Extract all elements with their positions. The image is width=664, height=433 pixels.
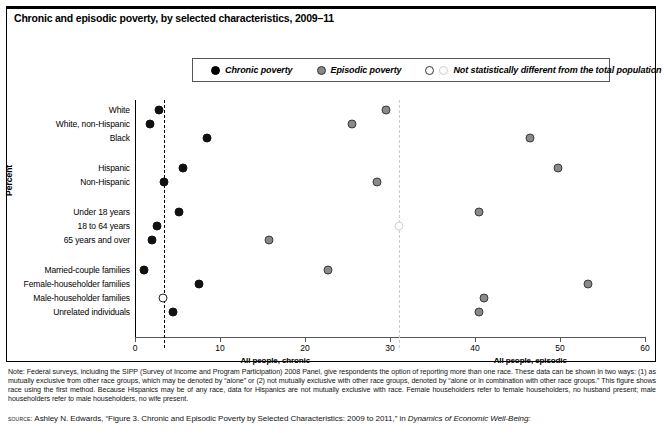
category-label: White, non-Hispanic [56,119,130,129]
data-point [139,266,148,275]
x-axis-tick [390,337,391,342]
data-point [554,164,563,173]
data-point [526,134,535,143]
source-text: Ashley N. Edwards, “Figure 3. Chronic an… [33,414,408,423]
x-axis-tick [135,337,136,342]
x-axis-tick-label: 50 [555,343,564,353]
category-label: Female-householder families [24,279,130,289]
category-label: White [109,105,130,115]
data-point [194,280,203,289]
data-point [148,236,157,245]
x-axis-tick [560,337,561,342]
data-point [265,236,274,245]
category-label: Black [110,133,130,143]
source-prefix: source: [8,415,33,422]
category-label: Male-householder families [33,293,130,303]
category-label: Non-Hispanic [80,177,130,187]
data-point [373,178,382,187]
x-axis-tick-label: 0 [133,343,138,353]
x-axis-tick [475,337,476,342]
y-axis-line [135,100,136,337]
data-point [475,308,484,317]
x-axis-tick [220,337,221,342]
figure-source: source: Ashley N. Edwards, “Figure 3. Ch… [8,414,656,424]
source-publication: Dynamics of Economic Well-Being: [408,414,531,423]
data-point [381,106,390,115]
data-point [323,266,332,275]
data-point [159,178,168,187]
category-label: 65 years and over [64,235,130,245]
reference-line [164,100,165,348]
data-point [146,120,155,129]
x-axis-tick-label: 60 [640,343,649,353]
category-label: Under 18 years [73,207,130,217]
data-point [178,164,187,173]
x-axis-tick-label: 10 [215,343,224,353]
data-point [394,222,403,231]
x-axis-tick-label: 20 [300,343,309,353]
x-axis-tick-label: 30 [385,343,394,353]
figure-note: Note: Federal surveys, including the SIP… [8,368,656,404]
data-point [175,208,184,217]
category-label: Unrelated individuals [53,307,130,317]
data-point [159,294,168,303]
data-point [475,208,484,217]
data-point [347,120,356,129]
x-axis-tick [305,337,306,342]
category-axis-labels: WhiteWhite, non-HispanicBlackHispanicNon… [0,0,130,356]
reference-line-label: All people, episodic [494,356,567,365]
data-point [153,222,162,231]
data-point [154,106,163,115]
category-label: 18 to 64 years [78,221,130,231]
category-label: Hispanic [98,163,130,173]
data-point [479,294,488,303]
data-point [169,308,178,317]
data-point [203,134,212,143]
x-axis-tick [645,337,646,342]
data-point [584,280,593,289]
chart-plot: Percent WhiteWhite, non-HispanicBlackHis… [0,0,650,356]
x-axis-tick-label: 40 [470,343,479,353]
category-label: Married-couple families [44,265,130,275]
reference-line-label: All people, chronic [240,356,310,365]
